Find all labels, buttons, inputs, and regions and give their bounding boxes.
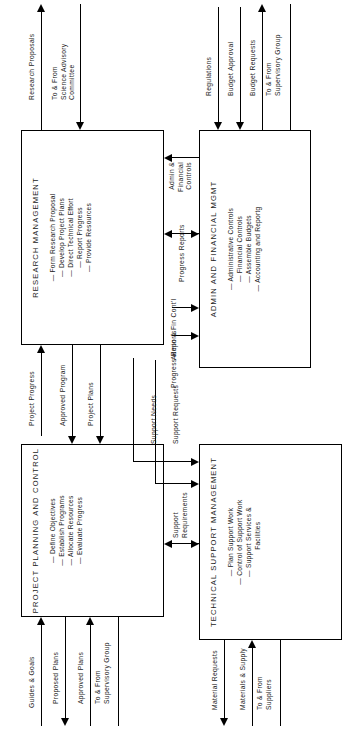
list-item: — Establish Programs [58,495,66,566]
arrowhead-budget-requests-out [258,4,266,12]
arrowhead-regulations-in [214,122,222,130]
arrowhead-guides-goals-in [37,617,45,625]
box-activity-list: — Plan Support Work — Control of Support… [227,445,262,639]
flow-line-project-plans [100,345,101,436]
box-title: PROJECT PLANNING AND CONTROL [31,445,40,616]
list-item: — Provide Resources [85,203,93,272]
arrowhead-proposed-plans-out [61,718,69,726]
list-item: — Administrative Controls [227,208,235,290]
flow-line-guides-goals [41,625,42,726]
arrowhead-support-needs-in [191,480,199,488]
flow-line-support-requests-v [133,461,191,462]
arrowhead-approved-program-in [68,436,76,444]
list-item: — Evaluate Progress [76,497,84,564]
box-technical-support-management[interactable]: TECHNICAL SUPPORT MANAGEMENT — Plan Supp… [199,444,342,640]
flow-line-suppliers [280,640,281,726]
arrowhead-material-requests-out [220,718,228,726]
list-item: — Direct Technical Effort [67,198,75,277]
flow-label-budget-approval: Budget Approval [227,42,236,96]
list-item: — Allocate Resources [67,496,75,566]
list-item: — Define Objectives [49,498,57,563]
flow-line-support-needs-v [155,483,191,484]
box-activity-list: — Define Objectives — Establish Programs… [49,445,84,616]
flow-label-materials-supply: Materials & Supply [239,648,248,710]
flow-label-budget-requests: Budget Requests [249,39,258,96]
list-item: — Accounting and Reportg [254,207,262,292]
flow-line-material-requests [224,640,225,718]
flow-line-project-progress [41,353,42,436]
list-item: — Assemble Budgets [245,215,253,283]
flow-label-supervisory-group-right: To & From Supervisory Group [265,34,282,96]
flow-label-suppliers: To & From Suppliers [256,676,273,710]
flow-line-admin-financial-controls [172,157,199,158]
list-item: — Form Research Proposal [49,194,57,282]
flow-line-research-proposals [41,12,42,130]
flow-label-guides-goals: Guides & Goals [28,656,37,708]
flow-label-material-requests: Material Requests [211,650,220,710]
arrowhead-support-requests-in [191,458,199,466]
arrowhead-materials-supply-in [248,640,256,648]
arrowhead-project-progress-in [37,345,45,353]
flow-label-proposed-plans: Proposed Plans [52,652,61,704]
arrowhead-support-requirements-down [191,540,199,548]
list-item: — Report Progress [76,207,84,268]
arrowhead-progress-reports-bottom-in [191,332,199,340]
flow-label-project-plans: Project Plans [87,382,96,426]
box-title: ADMIN AND FINANCIAL MGMT [209,131,218,367]
flow-label-approved-plans: Approved Plans [77,652,86,704]
flow-line-science-advisory [80,4,81,122]
flow-label-research-proposals: Research Proposals [28,33,37,100]
flow-label-approved-program: Approved Program [59,364,68,426]
arrowhead-research-proposals-out [37,4,45,12]
box-research-management[interactable]: RESEARCH MANAGEMENT — Form Research Prop… [21,130,164,345]
list-item: — Control of Support Work [236,499,244,584]
list-item: Facilities [254,522,262,563]
flow-label-admin-financial-controls: Admin & Financial Controls [168,162,194,206]
flow-label-support-requirements: Support Requirements [172,492,189,538]
arrowhead-science-advisory-in [76,122,84,130]
flow-line-regulations [218,7,219,122]
flow-line-proposed-plans [65,617,66,718]
flow-line-supervisory-group-right [290,4,291,130]
flow-label-supervisory-group-left: To & From Supervisory Group [94,642,111,704]
flow-line-approved-plans [90,625,91,726]
flow-label-support-needs: Support Needs [150,395,159,444]
box-title: RESEARCH MANAGEMENT [31,131,40,344]
flow-line-approved-program [72,345,73,436]
flow-label-support-requests: Support Requests [172,385,181,444]
flow-label-regulations: Regulations [205,57,214,96]
box-admin-and-financial-mgmt[interactable]: ADMIN AND FINANCIAL MGMT — Administrativ… [199,130,311,368]
box-activity-list: — Form Research Proposal — Develop Proje… [49,131,93,344]
flow-line-materials-supply [252,648,253,726]
arrowhead-admin-financial-controls-in [164,154,172,162]
flow-label-project-progress: Project Progress [28,371,37,426]
arrowhead-budget-approval-in [236,122,244,130]
flow-label-science-advisory: To & From Science Advisory Committee [51,43,77,100]
list-item: — Plan Support Work [227,508,235,576]
flow-line-support-requests-h [133,358,134,462]
box-title: TECHNICAL SUPPORT MANAGEMENT [209,445,218,639]
arrowhead-progress-reports-top-up [164,230,172,238]
arrowhead-progress-reports-top-down [191,230,199,238]
flow-line-budget-approval [240,7,241,122]
flow-label-progress-reports-top: Progress Reports [178,224,187,282]
list-item: — Develop Project Plans [58,198,66,277]
flow-label-progress-reports-bottom: Progress Reports [170,330,179,388]
flow-line-supervisory-group-left [118,617,119,726]
list-item: — Support Services & [245,507,253,577]
list-item: — Financial Controls [236,216,244,282]
arrowhead-admin-fin-contl-in [191,304,199,312]
arrowhead-project-plans-out [96,436,104,444]
flow-line-budget-requests [262,12,263,130]
arrowhead-support-requirements-up [164,540,172,548]
arrowhead-approved-plans-in [86,617,94,625]
box-project-planning-and-control[interactable]: PROJECT PLANNING AND CONTROL — Define Ob… [21,444,164,617]
box-activity-list: — Administrative Controls — Financial Co… [227,131,262,367]
